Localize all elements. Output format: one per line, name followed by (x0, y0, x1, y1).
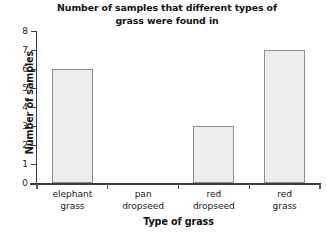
x-axis-label: Type of grass (37, 216, 320, 227)
x-axis-category-label: red dropseed (179, 189, 250, 212)
x-axis-line (30, 183, 321, 185)
y-axis-tick (31, 164, 37, 165)
y-axis-tick-label: 3 (8, 122, 28, 131)
bar (193, 126, 234, 183)
x-axis-category-label: pan dropseed (108, 189, 179, 212)
bar (264, 50, 305, 183)
bar (52, 69, 93, 183)
x-axis-category-label: red grass (249, 189, 320, 212)
y-axis-tick-label: 4 (8, 103, 28, 112)
y-axis-tick-label: 5 (8, 84, 28, 93)
y-axis-tick (31, 107, 37, 108)
x-axis-category-label: elephant grass (37, 189, 108, 212)
y-axis-tick-label: 1 (8, 160, 28, 169)
y-axis-tick (31, 50, 37, 51)
y-axis-tick (31, 69, 37, 70)
y-axis-tick-label: 2 (8, 141, 28, 150)
y-axis-tick (31, 88, 37, 89)
y-axis-tick-label: 0 (8, 179, 28, 188)
y-axis-tick-label: 8 (8, 27, 28, 36)
y-axis-tick (31, 31, 37, 32)
y-axis-tick-label: 7 (8, 46, 28, 55)
y-axis-tick-label: 6 (8, 65, 28, 74)
y-axis-tick (31, 126, 37, 127)
chart-title: Number of samples that different types o… (42, 2, 292, 27)
y-axis-tick (31, 145, 37, 146)
bar-chart: Number of samples that different types o… (0, 0, 327, 234)
